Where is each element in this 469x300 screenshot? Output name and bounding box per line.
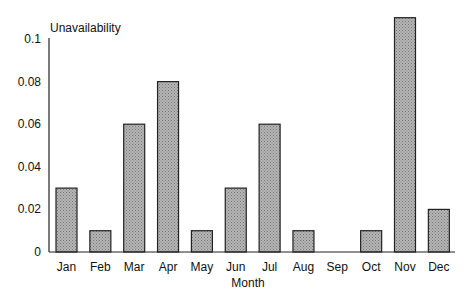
y-axis-title: Unavailability (50, 21, 121, 35)
x-tick-label: May (191, 260, 214, 274)
y-tick-label: 0 (34, 245, 41, 259)
x-tick-label: Jan (57, 260, 76, 274)
y-tick-label: 0.08 (18, 75, 42, 89)
bar-nov (395, 18, 416, 252)
x-axis: JanFebMarAprMayJunJulAugSepOctNovDec (49, 252, 455, 274)
y-tick-label: 0.02 (18, 202, 42, 216)
y-tick-label: 0.04 (18, 160, 42, 174)
bar-jun (225, 188, 246, 252)
x-tick-label: Feb (90, 260, 111, 274)
x-tick-label: Oct (362, 260, 381, 274)
x-tick-label: Apr (159, 260, 178, 274)
x-tick-label: Dec (428, 260, 449, 274)
bar-dec (428, 209, 449, 252)
bar-mar (124, 124, 145, 252)
x-tick-label: Aug (293, 260, 314, 274)
x-tick-label: Mar (124, 260, 145, 274)
bar-may (191, 231, 212, 252)
unavailability-bar-chart: 00.020.040.060.080.1 JanFebMarAprMayJunJ… (0, 0, 469, 300)
x-tick-label: Sep (327, 260, 349, 274)
bar-oct (361, 231, 382, 252)
y-tick-label: 0.1 (24, 32, 41, 46)
bar-jan (56, 188, 77, 252)
x-tick-label: Jul (262, 260, 277, 274)
bar-feb (90, 231, 111, 252)
y-tick-label: 0.06 (18, 117, 42, 131)
x-tick-label: Nov (394, 260, 415, 274)
bar-apr (158, 82, 179, 252)
x-axis-title: Month (231, 276, 264, 290)
bar-aug (293, 231, 314, 252)
x-tick-label: Jun (226, 260, 245, 274)
bar-jul (259, 124, 280, 252)
y-axis: 00.020.040.060.080.1 (18, 32, 49, 259)
bars (56, 18, 449, 252)
